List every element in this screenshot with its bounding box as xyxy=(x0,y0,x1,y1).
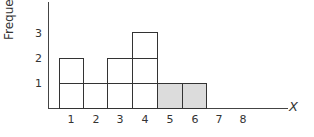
box-col1-level2 xyxy=(59,58,84,84)
x-tick-3: 3 xyxy=(113,113,127,126)
x-tick-5: 5 xyxy=(163,113,177,126)
x-tick-2: 2 xyxy=(89,113,103,126)
y-axis xyxy=(48,2,49,108)
x-tick-6: 6 xyxy=(188,113,202,126)
y-tick-2: 2 xyxy=(30,52,42,65)
box-col5-level1-shaded xyxy=(157,83,183,109)
frequency-histogram: Frequency 1 2 3 1 2 3 4 5 6 7 8 X xyxy=(0,0,314,137)
box-col3-level2 xyxy=(107,58,133,84)
x-axis-label: X xyxy=(289,99,298,114)
box-col3-level1 xyxy=(107,83,133,109)
x-tick-7: 7 xyxy=(212,113,226,126)
x-tick-1: 1 xyxy=(64,113,78,126)
box-col4-level1 xyxy=(132,83,158,109)
box-col1-level1 xyxy=(59,83,84,109)
y-tick-3: 3 xyxy=(30,27,42,40)
x-tick-4: 4 xyxy=(138,113,152,126)
x-tick-8: 8 xyxy=(236,113,250,126)
box-col2-level1 xyxy=(83,83,108,109)
box-col4-level2 xyxy=(132,58,158,84)
box-col6-level1-shaded xyxy=(182,83,207,109)
y-tick-1: 1 xyxy=(30,77,42,90)
box-col4-level3 xyxy=(132,32,158,59)
y-axis-label: Frequency xyxy=(2,0,16,40)
